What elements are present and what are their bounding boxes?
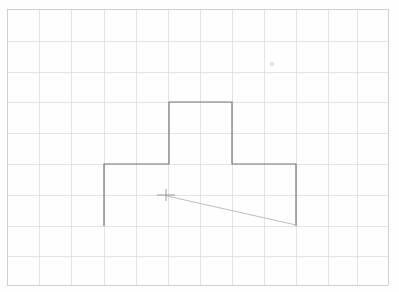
sketch-canvas (0, 0, 399, 292)
graph-paper-sheet (0, 0, 399, 292)
paper-background (0, 0, 399, 292)
paper-smudge-mark (270, 62, 274, 66)
